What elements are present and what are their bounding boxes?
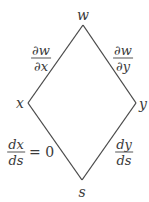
dx-ds-label: dx ds xyxy=(7,138,25,167)
fraction-numerator: dy xyxy=(115,138,133,152)
fraction-numerator: ∂w xyxy=(113,44,133,58)
partial-w-y-label: ∂w ∂y xyxy=(113,44,133,73)
edge-x-s xyxy=(28,103,82,180)
partial-w-x-label: ∂w ∂x xyxy=(31,44,51,73)
fraction-denominator: ds xyxy=(115,153,132,167)
node-x: x xyxy=(16,96,24,110)
fraction-denominator: ∂y xyxy=(115,59,131,73)
dy-ds-label: dy ds xyxy=(115,138,133,167)
node-w: w xyxy=(77,8,89,22)
fraction-denominator: ds xyxy=(8,153,25,167)
node-s: s xyxy=(78,185,85,199)
fraction-denominator: ∂x xyxy=(33,59,49,73)
fraction-numerator: dx xyxy=(7,138,25,152)
node-y: y xyxy=(139,97,147,111)
fraction-numerator: ∂w xyxy=(31,44,51,58)
equals-zero: = 0 xyxy=(29,145,54,159)
chain-rule-diagram: w x y s ∂w ∂x ∂w ∂y dx ds = 0 dy ds xyxy=(0,0,149,202)
